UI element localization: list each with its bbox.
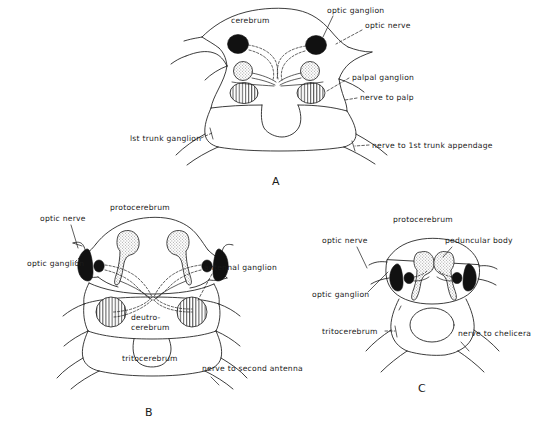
panel-a-peduncular-body-right — [301, 62, 320, 81]
panel-c-label-nerve-to-chelicera: nerve to chelicera — [458, 329, 531, 338]
panel-b-label-deutocerebrum-1: deutro- — [131, 313, 161, 322]
panel-a-palpal-ganglion-left — [230, 83, 258, 104]
panel-a-label-optic-nerve: optic nerve — [365, 21, 411, 30]
panel-a-label-cerebrum: cerebrum — [231, 16, 270, 25]
panel-c-label-tritocerebrum: tritocerebrum — [322, 327, 378, 336]
panel-b-label-optic-ganglion: optic ganglion — [27, 259, 84, 268]
panel-b-antennal-ganglion-left — [96, 297, 126, 327]
figure-canvas: cerebrum optic ganglion optic nerve palp… — [0, 0, 555, 422]
panel-a-letter: A — [272, 175, 280, 188]
panel-b-label-optic-nerve: optic nerve — [40, 214, 86, 223]
panel-c-label-optic-nerve: optic nerve — [322, 236, 368, 245]
panel-c-label-protocerebrum: protocerebrum — [393, 215, 453, 224]
panel-a-peduncular-body-left — [234, 62, 253, 81]
panel-a-label-nerve-to-palp: nerve to palp — [360, 93, 414, 102]
panel-a-optic-ganglion-left — [228, 35, 249, 54]
panel-a-label-nerve-to-first-trunk-appendage: nerve to 1st trunk appendage — [372, 141, 493, 150]
panel-a-optic-ganglion-right — [306, 36, 327, 55]
panel-b-label-protocerebrum: protocerebrum — [110, 203, 170, 212]
panel-c-label-peduncular-body: peduncular body — [445, 236, 513, 245]
panel-c-label-optic-ganglion: optic ganglion — [312, 290, 369, 299]
panel-b-label-deutocerebrum-2: cerebrum — [131, 323, 170, 332]
panel-b-label-tritocerebrum: tritocerebrum — [122, 354, 178, 363]
panel-a-label-optic-ganglion: optic ganglion — [327, 6, 384, 15]
panel-b-label-antennal-ganglion: antennal ganglion — [204, 263, 277, 272]
panel-b-label-nerve-to-second-antenna: nerve to second antenna — [202, 364, 303, 373]
panel-c-letter: C — [418, 382, 426, 395]
panel-a-label-first-trunk-ganglion: lst trunk ganglion — [130, 134, 201, 143]
panel-b-letter: B — [145, 406, 153, 419]
panel-a-label-palpal-ganglion: palpal ganglion — [352, 73, 414, 82]
panel-a-palpal-ganglion-right — [297, 83, 325, 104]
